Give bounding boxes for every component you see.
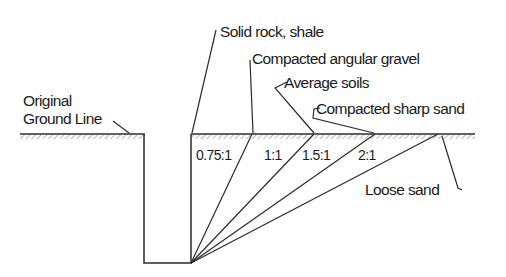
slope-diagram: Original Ground Line Solid rock, shale C… [0,0,506,277]
leader-solid-rock [192,30,216,133]
ratio-1-5: 1.5:1 [302,147,331,163]
leader-loose-sand [442,136,462,190]
ground-line-label-2: Ground Line [23,110,102,127]
label-compacted-angular-gravel: Compacted angular gravel [252,50,420,67]
label-average-soils: Average soils [284,74,370,91]
ground-hatch-left [20,135,145,139]
ratio-1-1: 1:1 [264,147,282,163]
ratio-0-75: 0.75:1 [196,147,232,163]
label-loose-sand: Loose sand [365,181,439,198]
leader-ground-line [113,121,129,133]
trench-outline [144,134,191,263]
label-solid-rock: Solid rock, shale [220,23,324,40]
ground-line-label-1: Original [23,92,72,109]
ratio-2-1: 2:1 [358,147,376,163]
label-compacted-sharp-sand: Compacted sharp sand [316,100,464,117]
leader-angular-gravel [250,60,253,133]
